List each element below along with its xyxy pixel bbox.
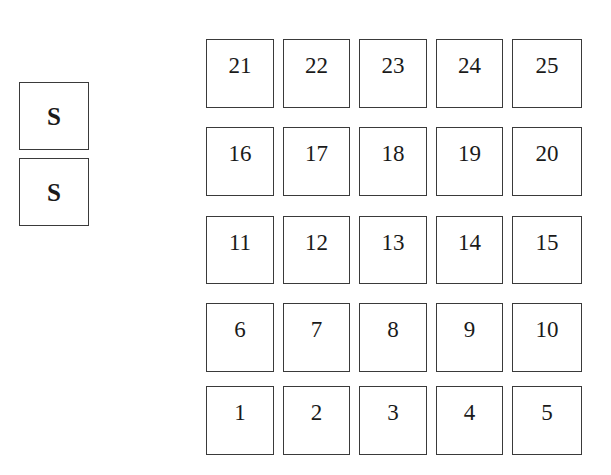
grid-cell-8: 8 [359,303,427,372]
cell-number: 21 [229,54,252,107]
grid-cell-11: 11 [206,216,274,284]
s-box: S [19,158,89,226]
grid-cell-19: 19 [436,127,503,196]
grid-cell-23: 23 [359,39,427,108]
cell-number: 18 [382,142,405,195]
cell-number: 8 [387,318,399,371]
cell-number: 22 [305,54,328,107]
grid-cell-2: 2 [283,386,350,455]
cell-number: 17 [305,142,328,195]
s-label: S [47,104,61,129]
grid-cell-16: 16 [206,127,274,196]
grid-cell-1: 1 [206,386,274,455]
grid-cell-12: 12 [283,216,350,284]
cell-number: 23 [382,54,405,107]
cell-number: 2 [311,401,323,454]
cell-number: 24 [458,54,481,107]
cell-number: 12 [305,231,328,283]
s-box: S [19,82,89,150]
grid-cell-25: 25 [512,39,582,108]
cell-number: 15 [536,231,559,283]
cell-number: 5 [541,401,553,454]
s-label: S [47,180,61,205]
grid-cell-24: 24 [436,39,503,108]
cell-number: 11 [229,231,251,283]
grid-cell-22: 22 [283,39,350,108]
cell-number: 7 [311,318,323,371]
grid-cell-17: 17 [283,127,350,196]
grid-cell-10: 10 [512,303,582,372]
cell-number: 19 [458,142,481,195]
grid-cell-3: 3 [359,386,427,455]
cell-number: 9 [464,318,476,371]
cell-number: 13 [382,231,405,283]
cell-number: 10 [536,318,559,371]
cell-number: 6 [234,318,246,371]
cell-number: 3 [387,401,399,454]
cell-number: 1 [234,401,246,454]
grid-cell-4: 4 [436,386,503,455]
cell-number: 4 [464,401,476,454]
grid-cell-20: 20 [512,127,582,196]
grid-cell-18: 18 [359,127,427,196]
grid-cell-9: 9 [436,303,503,372]
cell-number: 14 [458,231,481,283]
grid-cell-7: 7 [283,303,350,372]
grid-cell-5: 5 [512,386,582,455]
cell-number: 20 [536,142,559,195]
grid-cell-21: 21 [206,39,274,108]
grid-cell-6: 6 [206,303,274,372]
grid-cell-14: 14 [436,216,503,284]
cell-number: 25 [536,54,559,107]
grid-cell-15: 15 [512,216,582,284]
cell-number: 16 [229,142,252,195]
grid-cell-13: 13 [359,216,427,284]
